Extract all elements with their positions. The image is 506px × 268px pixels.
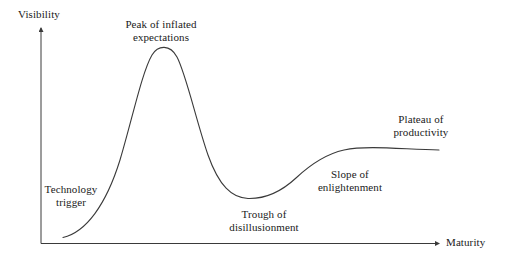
hype-cycle-figure: Visibility Maturity Technology trigger P…	[0, 0, 506, 268]
maturity-axis-title: Maturity	[446, 236, 485, 248]
label-plateau-of-productivity: Plateau of productivity	[384, 113, 458, 139]
label-trough-of-disillusionment: Trough of disillusionment	[220, 208, 308, 234]
label-peak-of-inflated-expectations: Peak of inflated expectations	[114, 18, 208, 44]
visibility-axis-title: Visibility	[18, 8, 60, 20]
label-slope-of-enlightenment: Slope of enlightenment	[302, 168, 398, 194]
label-technology-trigger: Technology trigger	[40, 183, 102, 209]
